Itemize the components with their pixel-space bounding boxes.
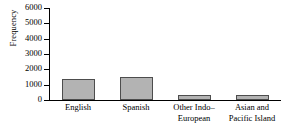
y-tick-label: 4000 bbox=[5, 34, 49, 43]
y-tick-label: 5000 bbox=[5, 18, 49, 27]
y-tick-label: 6000 bbox=[5, 3, 49, 12]
bar bbox=[178, 95, 211, 100]
bars-layer bbox=[49, 8, 281, 100]
x-axis-line bbox=[49, 100, 281, 101]
y-tick-label: 2000 bbox=[5, 64, 49, 73]
x-axis-categories: EnglishSpanishOther Indo–EuropeanAsian a… bbox=[49, 102, 281, 137]
bar bbox=[120, 77, 153, 100]
x-tick-label-line: Asian and bbox=[217, 102, 287, 113]
bar-chart: Frequency 0100020003000400050006000 Engl… bbox=[0, 0, 287, 137]
x-tick-label-line: Pacific Island bbox=[217, 113, 287, 124]
bar bbox=[62, 79, 95, 100]
y-tick-label: 3000 bbox=[5, 49, 49, 58]
x-tick-label: Asian andPacific Island bbox=[217, 102, 287, 124]
y-tick-label: 1000 bbox=[5, 80, 49, 89]
bar bbox=[236, 95, 269, 100]
